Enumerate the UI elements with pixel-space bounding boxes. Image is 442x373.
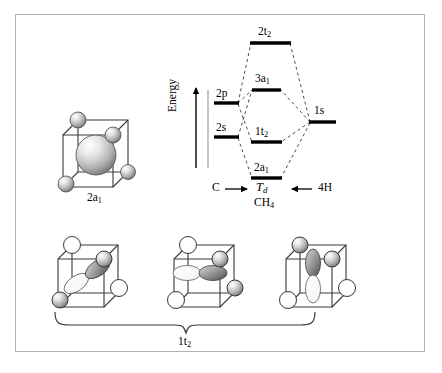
orbital-cube-1t2-a — [52, 237, 128, 309]
energy-axis — [196, 88, 208, 168]
energy-axis-label: Energy — [167, 79, 179, 112]
orbital-cube-1t2-b — [168, 237, 244, 309]
mo-diagram-figure: Energy 2p 2s 1s 2t2 3a1 1t2 2a1 C Td 4H … — [0, 0, 442, 373]
cube-label-2a1: 2a1 — [87, 192, 102, 205]
label-3a1: 3a1 — [255, 73, 270, 86]
label-carbon: C — [212, 182, 220, 194]
orbital-cube-1t2-c — [280, 237, 356, 309]
label-ch4: CH4 — [254, 197, 274, 210]
label-1s: 1s — [314, 105, 324, 117]
label-4h: 4H — [318, 182, 332, 194]
brace-1t2 — [55, 312, 315, 333]
label-2p: 2p — [216, 88, 228, 100]
brace-label-1t2: 1t2 — [178, 336, 191, 349]
label-2t2: 2t2 — [258, 26, 271, 39]
label-2s: 2s — [216, 122, 226, 134]
diagram-graphics — [0, 0, 442, 373]
orbital-cube-2a1 — [58, 112, 136, 192]
label-2a1: 2a1 — [254, 162, 269, 175]
correlation-lines — [238, 43, 310, 178]
label-1t2: 1t2 — [255, 126, 268, 139]
label-td-symmetry: Td — [256, 181, 267, 195]
